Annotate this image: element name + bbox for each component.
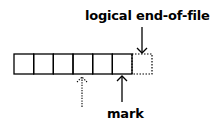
eof-label: logical end-of-file [85, 8, 210, 23]
file-cell [34, 54, 54, 74]
file-cells [14, 54, 132, 74]
file-cell [14, 54, 34, 74]
file-cell [112, 54, 132, 74]
dotted-position-arrow [77, 77, 87, 108]
file-diagram: logical end-of-file mark [0, 0, 210, 126]
mark-arrow [117, 76, 127, 102]
file-cell [73, 54, 93, 74]
file-cell [53, 54, 73, 74]
eof-placeholder-cell [132, 54, 152, 74]
file-cell [93, 54, 113, 74]
mark-label: mark [107, 106, 144, 121]
eof-arrow [137, 27, 147, 53]
